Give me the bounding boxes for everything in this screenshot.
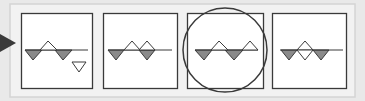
panel-4 (273, 14, 347, 89)
panel-2 (104, 14, 178, 89)
diagram-canvas (0, 0, 365, 101)
panel-3 (188, 14, 264, 89)
panel-1 (22, 14, 93, 89)
